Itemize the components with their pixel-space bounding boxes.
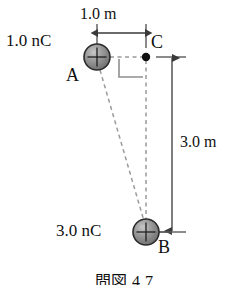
label-point-b: B [158, 238, 170, 256]
label-charge-a: 1.0 nC [6, 32, 51, 49]
point-c-dot [142, 53, 150, 61]
field-point-c [142, 53, 150, 61]
dashed-line-a-to-b [100, 70, 144, 221]
label-point-a: A [66, 66, 79, 84]
dimension-horizontal [97, 24, 146, 48]
connector-lines [100, 57, 146, 221]
figure-caption: 問図 4.7 [0, 268, 248, 285]
label-point-c: C [151, 33, 163, 51]
right-angle-path [119, 59, 143, 77]
label-charge-b: 3.0 nC [56, 222, 101, 239]
right-angle-mark-icon [119, 59, 143, 77]
charged-sphere-a [84, 44, 110, 70]
figure-container: 1.0 nC A C 3.0 nC B 1.0 m 3.0 m 問図 4.7 [0, 0, 248, 285]
label-dimension-horizontal: 1.0 m [80, 6, 116, 22]
label-dimension-vertical: 3.0 m [180, 134, 216, 150]
